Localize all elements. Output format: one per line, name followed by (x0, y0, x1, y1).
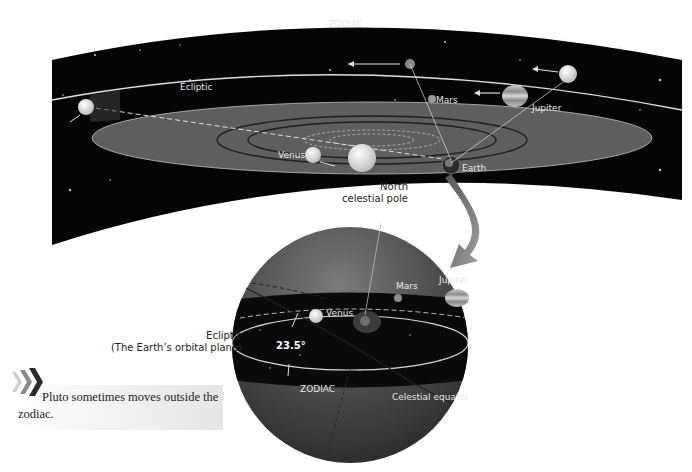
venus-label: Venus (278, 150, 305, 160)
north-pole-label: North celestial pole (320, 181, 408, 205)
ecliptic-label-line2: (The Earth’s orbital plane) (100, 342, 242, 354)
sphere-jupiter-label: Jupiter (438, 275, 469, 285)
sun (348, 144, 376, 172)
sphere-venus-label: Venus (326, 308, 353, 318)
sphere-zodiac-label: ZODIAC (300, 384, 335, 394)
celestial-equator-label: Celestial equator (392, 392, 469, 402)
tilt-angle-label: 23.5° (276, 340, 306, 351)
ecliptic-orbital-plane-label: Ecliptic (The Earth’s orbital plane) (100, 330, 242, 354)
mars-label: Mars (436, 95, 458, 105)
north-pole-line2: celestial pole (320, 193, 408, 205)
curved-arrow-icon (445, 174, 479, 268)
jupiter-planet (502, 85, 528, 107)
mars-planet (428, 95, 436, 103)
note-text: Pluto sometimes moves outside the zodiac… (18, 389, 228, 423)
north-pole-line1: North (320, 181, 408, 193)
jupiter-label: Jupiter (531, 103, 562, 113)
ecliptic-band-label: Ecliptic (180, 82, 212, 92)
note-text-content: Pluto sometimes moves outside the zodiac… (18, 390, 218, 421)
venus-planet (305, 147, 321, 163)
zodiac-title: ZODIAC (328, 19, 363, 29)
sphere-mars-label: Mars (396, 281, 418, 291)
earth-label: Earth (462, 163, 486, 173)
ecliptic-label-line1: Ecliptic (100, 330, 242, 342)
